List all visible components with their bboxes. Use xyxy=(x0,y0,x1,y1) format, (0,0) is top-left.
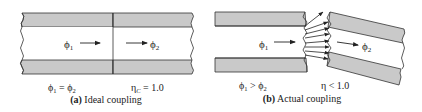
ray xyxy=(305,55,328,59)
coupling-efficiency-label: ηC = 1.0 xyxy=(131,82,164,94)
coupling-efficiency-label: η < 1.0 xyxy=(321,80,349,91)
fiber-2-bottom-cladding xyxy=(113,60,194,74)
ray-escaping xyxy=(305,12,323,26)
flux-relation-label: ϕ1 = ϕ2 xyxy=(48,82,76,94)
caption-b: (b) Actual coupling xyxy=(263,93,341,105)
flux-in-label: ϕ1 xyxy=(259,38,269,52)
fiber-coupling-diagram: ϕ1 ϕ2 ϕ1 = ϕ2 ηC = 1.0 (a) Ideal couplin… xyxy=(0,0,422,112)
flux-out-arrow xyxy=(337,42,358,45)
ray xyxy=(305,51,329,53)
scattered-rays xyxy=(305,12,329,59)
fiber-2-wavy-end xyxy=(191,27,194,60)
fiber-2-top-cladding xyxy=(328,12,405,43)
flux-out-label: ϕ2 xyxy=(150,38,160,52)
flux-relation-label: ϕ1 > ϕ2 xyxy=(239,80,267,92)
fiber-1-bottom-cladding xyxy=(215,58,307,72)
panel-a-ideal-coupling: ϕ1 ϕ2 ϕ1 = ϕ2 ηC = 1.0 (a) Ideal couplin… xyxy=(21,13,194,106)
caption-a: (a) Ideal coupling xyxy=(70,94,142,106)
fiber-2-wavy-end xyxy=(402,43,405,69)
fiber-2-top-cladding xyxy=(113,13,194,27)
ray xyxy=(305,34,329,38)
flux-out-label: ϕ2 xyxy=(362,40,372,54)
ray xyxy=(305,41,329,43)
panel-b-actual-coupling: ϕ1 ϕ2 ϕ1 > ϕ2 η < 1.0 (b) Actual couplin… xyxy=(215,12,405,105)
fiber-1-top-cladding xyxy=(21,13,113,27)
fiber-1-top-cladding xyxy=(215,12,306,26)
fiber-1-bottom-cladding xyxy=(21,60,114,74)
